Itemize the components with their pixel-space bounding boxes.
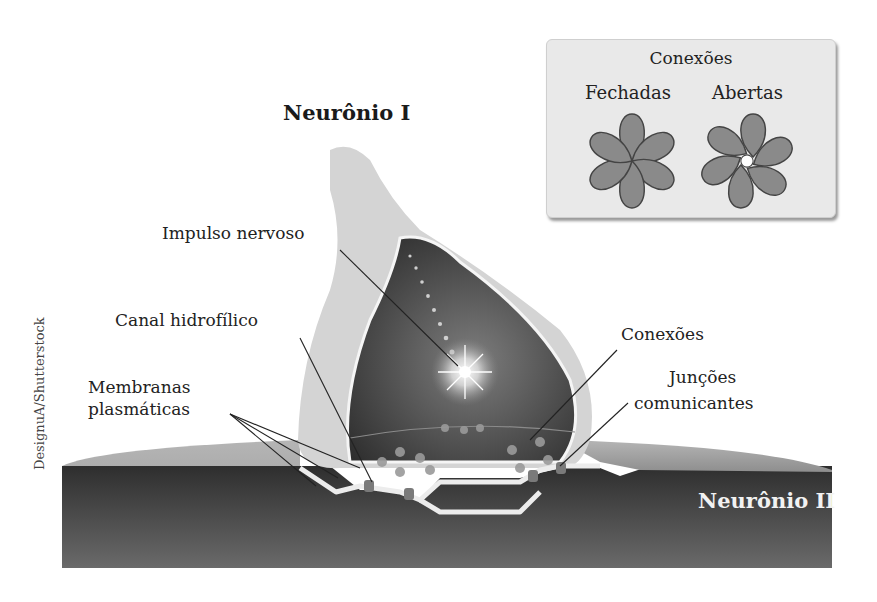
label-impulse: Impulso nervoso [162, 224, 304, 244]
connexon-closed-icon [577, 110, 687, 212]
neuron-2-title: Neurônio II [698, 489, 835, 513]
neuron-1-title: Neurônio I [283, 101, 410, 125]
legend-open-label: Abertas [712, 82, 783, 103]
connexon-open-icon [692, 110, 802, 212]
label-connexons: Conexões [621, 325, 704, 345]
label-junctions-1: Junções [669, 368, 736, 388]
label-membranes-1: Membranas [88, 378, 191, 398]
legend-closed-label: Fechadas [585, 82, 671, 103]
connexon-legend: Conexões Fechadas Abertas [546, 39, 836, 218]
legend-title: Conexões [547, 48, 835, 68]
label-junctions-2: comunicantes [634, 394, 753, 414]
gap-junction-diagram: Neurônio I Neurônio II Impulso nervoso C… [0, 0, 877, 602]
label-membranes-2: plasmáticas [88, 400, 190, 420]
label-channel: Canal hidrofílico [115, 311, 258, 331]
image-credit: DesignuA/Shutterstock [32, 317, 47, 470]
